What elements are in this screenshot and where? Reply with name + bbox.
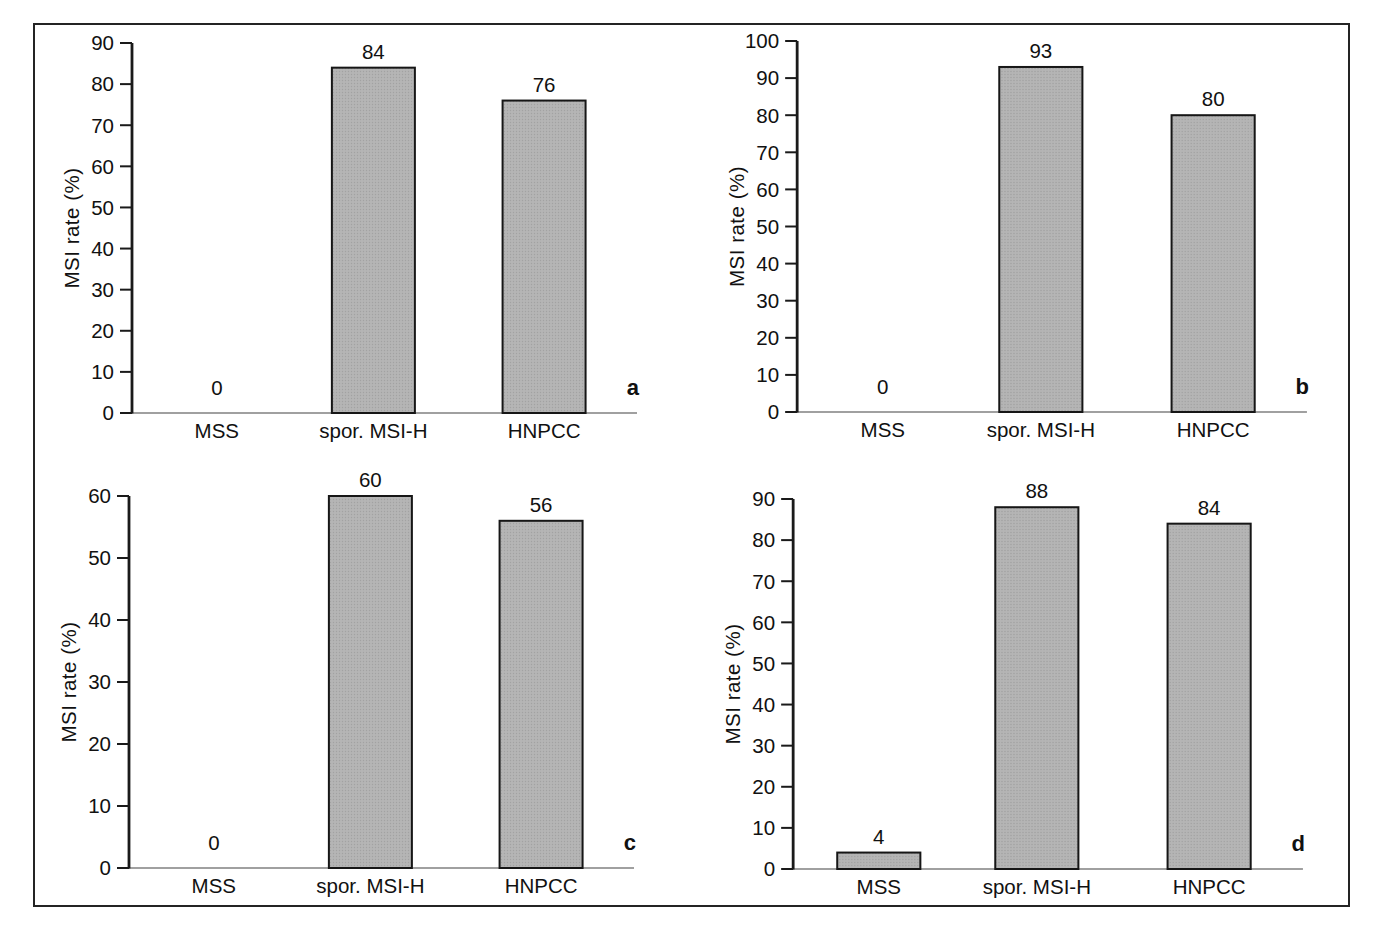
panel-letter-a: a	[627, 375, 640, 400]
bar-spor-msi-h	[995, 507, 1078, 869]
category-label-hnpcc: HNPCC	[1177, 418, 1250, 441]
value-label-hnpcc: 80	[1202, 87, 1225, 110]
chart-b: 0102030405060708090100MSI rate (%)0MSS93…	[691, 25, 1348, 465]
chart-c: 0102030405060MSI rate (%)0MSS60spor. MSI…	[35, 465, 691, 905]
y-tick-label-80: 80	[752, 529, 775, 552]
bar-spor-msi-h	[332, 68, 415, 413]
y-tick-label-60: 60	[756, 178, 779, 201]
y-tick-label-70: 70	[756, 141, 779, 164]
y-tick-label-40: 40	[752, 693, 775, 716]
y-axis-title: MSI rate (%)	[60, 167, 83, 288]
figure-page: 0102030405060708090MSI rate (%)0MSS84spo…	[0, 0, 1373, 937]
y-tick-label-80: 80	[756, 104, 779, 127]
panel-letter-c: c	[624, 830, 636, 855]
bar-spor-msi-h	[329, 496, 412, 868]
y-axis-title: MSI rate (%)	[57, 621, 80, 742]
y-tick-label-80: 80	[91, 72, 114, 95]
y-tick-label-30: 30	[752, 734, 775, 757]
y-tick-label-70: 70	[752, 570, 775, 593]
bar-hnpcc	[500, 521, 583, 868]
bar-hnpcc	[1172, 115, 1255, 412]
y-tick-label-0: 0	[100, 856, 111, 879]
y-tick-label-20: 20	[88, 732, 111, 755]
category-label-hnpcc: HNPCC	[508, 419, 581, 442]
y-tick-label-50: 50	[88, 546, 111, 569]
value-label-spor-msi-h: 60	[359, 468, 382, 491]
value-label-hnpcc: 84	[1198, 496, 1221, 519]
value-label-hnpcc: 76	[533, 73, 556, 96]
y-tick-label-50: 50	[752, 652, 775, 675]
category-label-mss: MSS	[192, 874, 236, 897]
y-tick-label-10: 10	[752, 816, 775, 839]
value-label-spor-msi-h: 93	[1029, 39, 1052, 62]
y-tick-label-10: 10	[88, 794, 111, 817]
panel-c: 0102030405060MSI rate (%)0MSS60spor. MSI…	[35, 465, 691, 905]
value-label-mss: 0	[208, 831, 219, 854]
panel-letter-b: b	[1295, 374, 1308, 399]
y-tick-label-0: 0	[768, 400, 779, 423]
category-label-mss: MSS	[857, 875, 901, 898]
y-tick-label-50: 50	[756, 215, 779, 238]
y-tick-label-30: 30	[756, 289, 779, 312]
y-tick-label-30: 30	[91, 278, 114, 301]
chart-d: 0102030405060708090MSI rate (%)4MSS88spo…	[691, 465, 1348, 905]
y-axis-title: MSI rate (%)	[725, 166, 748, 287]
y-tick-label-50: 50	[91, 196, 114, 219]
y-tick-label-100: 100	[745, 29, 779, 52]
category-label-spor-msi-h: spor. MSI-H	[987, 418, 1095, 441]
y-tick-label-40: 40	[91, 237, 114, 260]
y-tick-label-30: 30	[88, 670, 111, 693]
panel-b: 0102030405060708090100MSI rate (%)0MSS93…	[691, 25, 1348, 465]
value-label-mss: 0	[211, 376, 222, 399]
panel-a: 0102030405060708090MSI rate (%)0MSS84spo…	[35, 25, 691, 465]
category-label-hnpcc: HNPCC	[505, 874, 578, 897]
y-tick-label-10: 10	[756, 363, 779, 386]
panel-letter-d: d	[1291, 831, 1304, 856]
chart-a: 0102030405060708090MSI rate (%)0MSS84spo…	[35, 25, 691, 465]
bar-spor-msi-h	[999, 67, 1082, 412]
y-tick-label-90: 90	[752, 487, 775, 510]
value-label-spor-msi-h: 84	[362, 40, 385, 63]
value-label-hnpcc: 56	[530, 493, 553, 516]
y-tick-label-20: 20	[756, 326, 779, 349]
y-tick-label-40: 40	[756, 252, 779, 275]
category-label-mss: MSS	[195, 419, 239, 442]
figure-frame: 0102030405060708090MSI rate (%)0MSS84spo…	[33, 23, 1350, 907]
y-tick-label-60: 60	[88, 484, 111, 507]
y-axis-title: MSI rate (%)	[721, 624, 744, 745]
category-label-spor-msi-h: spor. MSI-H	[983, 875, 1091, 898]
panel-d: 0102030405060708090MSI rate (%)4MSS88spo…	[691, 465, 1348, 905]
y-tick-label-0: 0	[103, 401, 114, 424]
category-label-spor-msi-h: spor. MSI-H	[316, 874, 424, 897]
category-label-spor-msi-h: spor. MSI-H	[319, 419, 427, 442]
y-tick-label-90: 90	[91, 31, 114, 54]
y-tick-label-10: 10	[91, 360, 114, 383]
y-tick-label-20: 20	[752, 775, 775, 798]
y-tick-label-90: 90	[756, 66, 779, 89]
y-tick-label-70: 70	[91, 114, 114, 137]
y-tick-label-40: 40	[88, 608, 111, 631]
value-label-mss: 4	[873, 825, 884, 848]
y-tick-label-0: 0	[764, 857, 775, 880]
category-label-hnpcc: HNPCC	[1173, 875, 1246, 898]
bar-hnpcc	[1168, 524, 1251, 869]
category-label-mss: MSS	[861, 418, 905, 441]
value-label-mss: 0	[877, 375, 888, 398]
y-tick-label-60: 60	[91, 155, 114, 178]
value-label-spor-msi-h: 88	[1025, 479, 1048, 502]
y-tick-label-20: 20	[91, 319, 114, 342]
bar-mss	[837, 853, 920, 869]
y-tick-label-60: 60	[752, 611, 775, 634]
bar-hnpcc	[503, 101, 586, 413]
